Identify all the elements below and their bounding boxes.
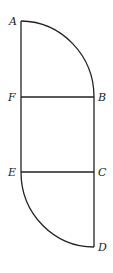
label-c: C (98, 166, 107, 179)
arc-e-d (21, 172, 94, 247)
label-b: B (97, 91, 106, 104)
label-a: A (8, 15, 17, 28)
label-d: D (97, 241, 107, 254)
arc-a-b (21, 21, 94, 97)
geometry-diagram: A F B E C D (0, 0, 113, 273)
label-f: F (7, 91, 16, 104)
label-e: E (7, 166, 16, 179)
